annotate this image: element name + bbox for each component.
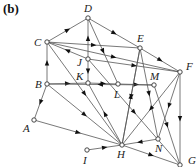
node-H (120, 143, 124, 147)
node-B (45, 82, 49, 86)
node-D (86, 16, 90, 20)
node-label-K: K (75, 70, 84, 82)
arrowhead-icon (81, 90, 88, 97)
arrowhead-icon (86, 36, 90, 42)
arrowhead-icon (37, 99, 43, 106)
node-C (45, 40, 49, 44)
node-label-G: G (188, 154, 196, 166)
arrowhead-icon (102, 110, 109, 117)
node-N (156, 137, 160, 141)
arrowhead-icon (45, 60, 49, 66)
arrowhead-icon (157, 57, 164, 64)
arrowhead-icon (148, 152, 155, 158)
arrowhead-icon (65, 81, 71, 86)
node-I (85, 148, 89, 152)
arrowhead-icon (75, 130, 81, 136)
node-label-H: H (116, 148, 126, 160)
node-G (178, 163, 182, 167)
arrowhead-icon (178, 116, 182, 122)
node-label-D: D (83, 2, 92, 14)
node-label-B: B (35, 78, 42, 90)
node-M (152, 83, 156, 87)
arrowhead-icon (86, 69, 90, 75)
node-label-J: J (77, 56, 83, 68)
arrowhead-icon (111, 54, 117, 60)
node-A (32, 118, 36, 122)
node-label-E: E (136, 32, 144, 44)
node-K (86, 81, 90, 85)
node-F (178, 70, 182, 74)
arrowhead-icon (91, 43, 97, 48)
arrowhead-icon (166, 102, 172, 109)
node-label-F: F (185, 60, 193, 72)
node-label-M: M (149, 70, 160, 82)
node-L (116, 82, 120, 86)
arrowhead-icon (97, 82, 103, 86)
node-label-N: N (154, 142, 163, 154)
node-E (138, 46, 142, 50)
node-label-L: L (113, 88, 120, 100)
node-label-A: A (22, 122, 30, 134)
node-label-C: C (34, 36, 42, 48)
arrowhead-icon (164, 122, 170, 129)
directed-graph: DCEFJKBLMAIHNG (0, 0, 196, 167)
arrowhead-icon (64, 47, 71, 53)
arrowhead-icon (64, 27, 71, 34)
node-J (86, 57, 90, 61)
arrowhead-icon (100, 48, 106, 55)
arrowhead-icon (146, 91, 151, 97)
node-label-I: I (82, 154, 88, 166)
arrowhead-icon (111, 30, 118, 37)
